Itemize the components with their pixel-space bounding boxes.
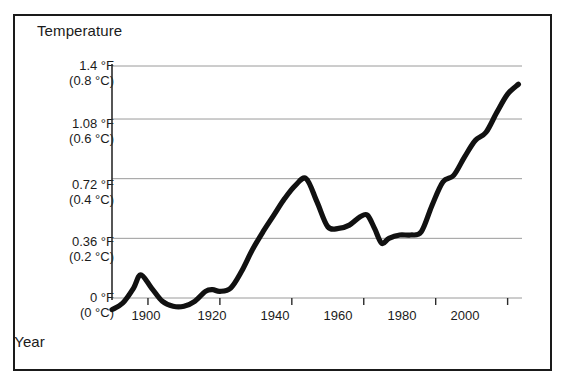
- y-axis-title: Temperature: [37, 22, 122, 39]
- y-tick-label-1.4F: 1.4 °F (0.8 °C): [22, 58, 114, 88]
- x-tick-label-1940: 1940: [245, 308, 305, 323]
- x-tick-label-2000: 2000: [435, 308, 495, 323]
- y-tick-fahrenheit: 1.4 °F: [22, 58, 114, 73]
- x-axis-title-wrapper: Year: [0, 333, 567, 350]
- y-tick-label-1.08F: 1.08 °F (0.6 °C): [22, 116, 114, 146]
- x-tick-label-1900: 1900: [116, 308, 176, 323]
- y-tick-celsius: (0.6 °C): [22, 131, 114, 146]
- y-tick-celsius: (0.2 °C): [22, 249, 114, 264]
- temperature-chart-figure: Temperature 1.4 °F (0.8 °C) 1.08 °F (0.6…: [0, 0, 567, 384]
- y-tick-celsius: (0.8 °C): [22, 73, 114, 88]
- x-tick-label-1920: 1920: [182, 308, 242, 323]
- x-tick-label-1980: 1980: [372, 308, 432, 323]
- y-tick-label-0.36F: 0.36 °F (0.2 °C): [22, 234, 114, 264]
- y-tick-fahrenheit: 0 °F: [22, 290, 114, 305]
- x-tick-label-1960: 1960: [308, 308, 368, 323]
- y-tick-label-0.72F: 0.72 °F (0.4 °C): [22, 177, 114, 207]
- y-tick-label-0F: 0 °F (0 °C): [22, 290, 114, 320]
- y-tick-celsius: (0 °C): [22, 305, 114, 320]
- y-tick-fahrenheit: 0.72 °F: [22, 177, 114, 192]
- y-tick-fahrenheit: 1.08 °F: [22, 116, 114, 131]
- y-tick-fahrenheit: 0.36 °F: [22, 234, 114, 249]
- y-tick-celsius: (0.4 °C): [22, 192, 114, 207]
- x-axis-title: Year: [14, 333, 44, 350]
